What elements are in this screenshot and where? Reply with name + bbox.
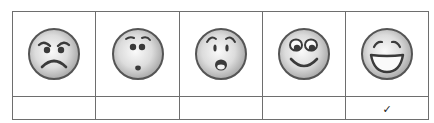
selection-cell-angry[interactable]: [13, 97, 96, 120]
puzzled-face-icon: [111, 27, 165, 81]
face-cell-happy[interactable]: [263, 12, 346, 97]
face-cell-angry[interactable]: [13, 12, 96, 97]
face-cell-shocked[interactable]: [180, 12, 263, 97]
angry-face-icon: [27, 27, 81, 81]
selection-cell-shocked[interactable]: [180, 97, 263, 120]
selection-cell-laughing[interactable]: ✓: [346, 97, 429, 120]
face-cell-laughing[interactable]: [346, 12, 429, 97]
smiley-rating-scale: ✓: [12, 11, 429, 120]
laughing-face-icon: [360, 27, 414, 81]
face-cell-puzzled[interactable]: [96, 12, 180, 97]
shocked-face-icon: [194, 27, 248, 81]
checkmark-icon: ✓: [382, 103, 391, 116]
selection-cell-happy[interactable]: [263, 97, 346, 120]
happy-face-icon: [277, 27, 331, 81]
faces-row: [13, 12, 429, 97]
selection-cell-puzzled[interactable]: [96, 97, 180, 120]
selection-row: ✓: [13, 97, 429, 120]
